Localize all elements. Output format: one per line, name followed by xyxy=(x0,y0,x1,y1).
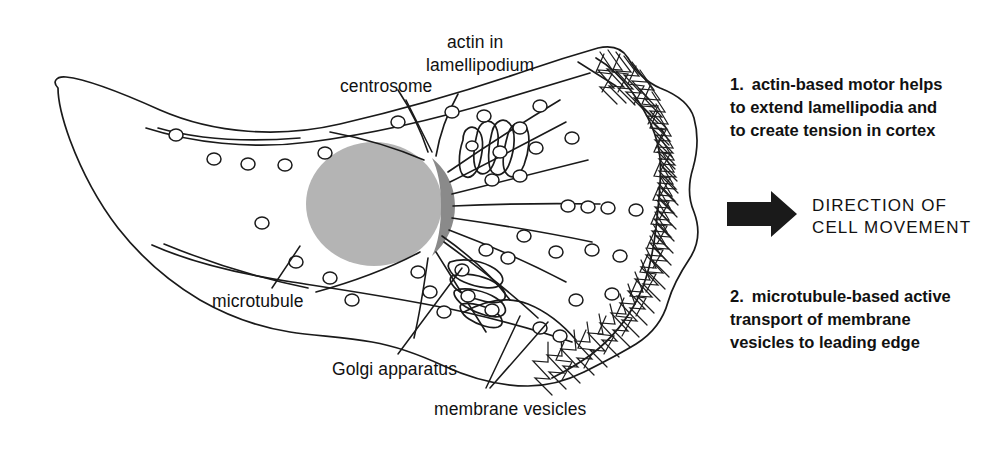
label-golgi-apparatus: Golgi apparatus xyxy=(332,359,457,379)
membrane-vesicle xyxy=(485,174,499,186)
membrane-vesicle xyxy=(437,306,451,318)
membrane-vesicle xyxy=(629,204,643,216)
membrane-vesicle xyxy=(169,129,183,141)
direction-group: DIRECTION OF CELL MOVEMENT xyxy=(727,191,971,237)
membrane-vesicle xyxy=(423,286,437,298)
membrane-vesicle xyxy=(605,288,619,300)
note-1-line1: 1.actin-based motor helps xyxy=(730,75,942,93)
membrane-vesicle xyxy=(569,294,583,306)
membrane-vesicle xyxy=(581,201,595,213)
membrane-vesicle xyxy=(411,266,425,278)
label-microtubule: microtubule xyxy=(212,291,304,311)
label-actin-in-lamellipodium-line1: actin in xyxy=(447,32,503,52)
label-centrosome: centrosome xyxy=(340,76,432,96)
membrane-vesicle xyxy=(391,116,405,128)
arrow-right-icon xyxy=(727,191,797,237)
membrane-vesicle xyxy=(553,330,567,342)
membrane-vesicle xyxy=(318,147,332,159)
note-1-line2: to extend lamellipodia and xyxy=(730,98,937,116)
note-1-group: 1.actin-based motor helps to extend lame… xyxy=(730,75,942,139)
membrane-vesicle xyxy=(479,244,493,256)
membrane-vesicle xyxy=(517,230,531,242)
membrane-vesicle xyxy=(466,141,478,151)
membrane-vesicle xyxy=(513,170,527,182)
membrane-vesicle xyxy=(485,304,499,316)
membrane-vesicle xyxy=(613,250,627,262)
membrane-vesicle xyxy=(561,200,575,212)
membrane-vesicle xyxy=(585,244,599,256)
note-1-line3: to create tension in cortex xyxy=(730,121,936,139)
membrane-vesicle xyxy=(549,246,563,258)
membrane-vesicle xyxy=(565,132,579,144)
membrane-vesicle xyxy=(533,100,547,112)
direction-line1: DIRECTION OF xyxy=(812,196,947,215)
membrane-vesicle xyxy=(289,256,303,268)
membrane-vesicle xyxy=(345,294,359,306)
membrane-vesicle xyxy=(323,272,337,284)
membrane-vesicle xyxy=(278,159,292,171)
figure-canvas: actin in lamellipodium centrosome microt… xyxy=(0,0,990,457)
direction-line2: CELL MOVEMENT xyxy=(812,218,971,237)
nucleus xyxy=(306,142,442,266)
membrane-vesicle xyxy=(601,202,615,214)
membrane-vesicle xyxy=(445,106,459,118)
membrane-vesicle xyxy=(529,142,543,154)
membrane-vesicle xyxy=(477,110,491,122)
note-2-line3: vesicles to leading edge xyxy=(730,333,920,351)
membrane-vesicle xyxy=(501,252,515,264)
label-actin-in-lamellipodium-line2: lamellipodium xyxy=(426,55,534,75)
membrane-vesicle xyxy=(255,217,269,229)
membrane-vesicle xyxy=(513,122,527,134)
note-2-group: 2.microtubule-based active transport of … xyxy=(730,287,951,351)
membrane-vesicle xyxy=(241,158,255,170)
membrane-vesicle xyxy=(461,290,475,302)
note-2-line1: 2.microtubule-based active xyxy=(730,287,951,305)
nucleus-group xyxy=(306,142,442,266)
label-membrane-vesicles: membrane vesicles xyxy=(434,399,587,419)
membrane-vesicle xyxy=(493,146,507,158)
membrane-vesicle xyxy=(207,153,221,165)
note-2-line2: transport of membrane xyxy=(730,310,911,328)
cell-diagram-svg: actin in lamellipodium centrosome microt… xyxy=(0,0,990,457)
